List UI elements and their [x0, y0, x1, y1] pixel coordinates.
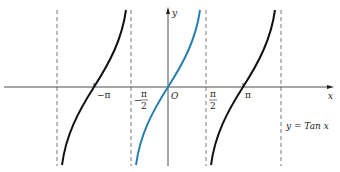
tick-label-neg-pi: −π [97, 90, 111, 100]
branch-left [62, 10, 126, 165]
tick-label-neg-pi-2-num: π [141, 89, 147, 99]
tick-label-neg-pi-2-den: 2 [141, 101, 147, 111]
tick-label-pi-2-num: π [210, 89, 216, 99]
x-axis-arrow-icon [327, 85, 334, 89]
origin-label: O [171, 91, 179, 101]
tan-graph: y x O −π − π 2 π 2 π y = Tan x [0, 0, 340, 172]
y-axis-arrow-icon [166, 7, 170, 14]
x-axis-label: x [328, 91, 333, 101]
y-axis-label: y [171, 8, 178, 18]
function-label: y = Tan x [285, 121, 329, 131]
branch-right [211, 10, 275, 165]
asymptotes [57, 10, 281, 166]
tick-label-pi-2-den: 2 [210, 101, 216, 111]
tick-label-pi: π [245, 90, 251, 100]
